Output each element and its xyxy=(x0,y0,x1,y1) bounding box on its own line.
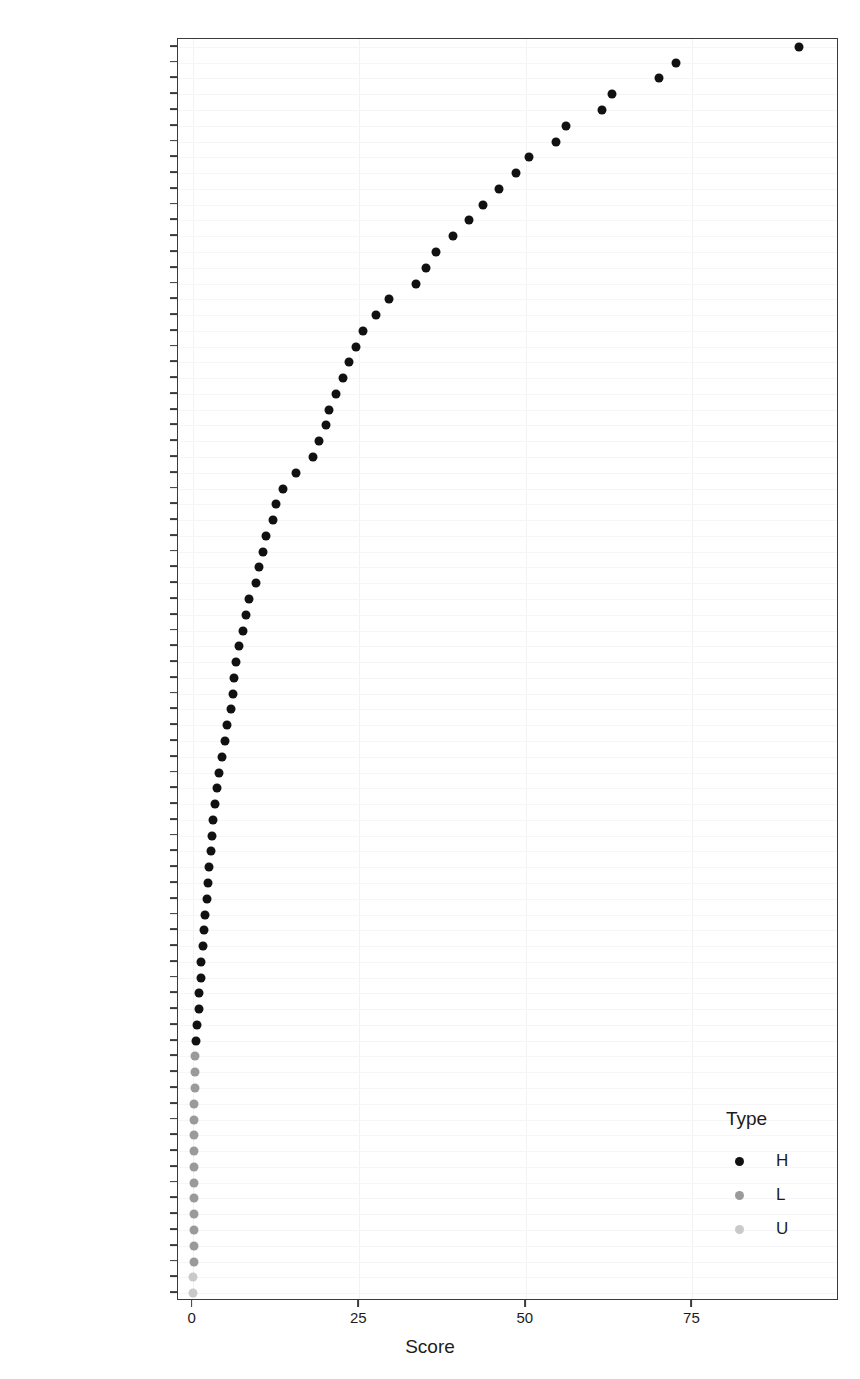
legend-dot-icon xyxy=(735,1191,744,1200)
data-point xyxy=(202,894,211,903)
data-point xyxy=(189,1178,198,1187)
y-tick-mark xyxy=(170,518,177,520)
gridline-horizontal xyxy=(178,757,837,758)
data-point xyxy=(271,500,280,509)
y-tick-mark xyxy=(170,708,177,710)
gridline-horizontal xyxy=(178,347,837,348)
data-point xyxy=(671,58,680,67)
y-tick-mark xyxy=(170,45,177,47)
data-point xyxy=(478,200,487,209)
legend-entries: HLU xyxy=(722,1144,842,1246)
data-point xyxy=(194,1005,203,1014)
data-point xyxy=(228,689,237,698)
gridline-horizontal xyxy=(178,1104,837,1105)
y-tick-mark xyxy=(170,692,177,694)
gridline-horizontal xyxy=(178,157,837,158)
data-point xyxy=(190,1052,199,1061)
y-tick-mark xyxy=(170,723,177,725)
data-point xyxy=(345,358,354,367)
y-tick-mark xyxy=(170,439,177,441)
gridline-horizontal xyxy=(178,489,837,490)
gridline-horizontal xyxy=(178,173,837,174)
gridline-horizontal xyxy=(178,315,837,316)
data-point xyxy=(525,153,534,162)
y-tick-mark xyxy=(170,1007,177,1009)
y-tick-mark xyxy=(170,1055,177,1057)
gridline-horizontal xyxy=(178,63,837,64)
gridline-horizontal xyxy=(178,47,837,48)
gridline-horizontal xyxy=(178,331,837,332)
scatter-plot-figure: Overall_QualNeighborhoodGr_Liv_AreaFull_… xyxy=(0,0,860,1379)
gridline-horizontal xyxy=(178,899,837,900)
gridline-horizontal xyxy=(178,394,837,395)
data-point xyxy=(495,184,504,193)
data-point xyxy=(217,752,226,761)
y-tick-mark xyxy=(170,1086,177,1088)
gridline-horizontal xyxy=(178,94,837,95)
gridline-horizontal xyxy=(178,804,837,805)
gridline-horizontal xyxy=(178,741,837,742)
y-tick-mark xyxy=(170,1291,177,1293)
data-point xyxy=(213,784,222,793)
gridline-horizontal xyxy=(178,851,837,852)
gridline-horizontal xyxy=(178,552,837,553)
y-tick-mark xyxy=(170,282,177,284)
gridline-horizontal xyxy=(178,378,837,379)
gridline-horizontal xyxy=(178,836,837,837)
gridline-horizontal xyxy=(178,978,837,979)
legend-entry[interactable]: U xyxy=(722,1212,842,1246)
gridline-horizontal xyxy=(178,694,837,695)
data-point xyxy=(251,579,260,588)
data-point xyxy=(411,279,420,288)
y-tick-mark xyxy=(170,1212,177,1214)
data-point xyxy=(308,453,317,462)
y-tick-mark xyxy=(170,297,177,299)
data-point xyxy=(189,1210,198,1219)
gridline-horizontal xyxy=(178,583,837,584)
data-point xyxy=(655,74,664,83)
gridline-horizontal xyxy=(178,1025,837,1026)
data-point xyxy=(189,1241,198,1250)
y-tick-mark xyxy=(170,1260,177,1262)
gridline-horizontal xyxy=(178,915,837,916)
data-point xyxy=(211,800,220,809)
y-tick-mark xyxy=(170,487,177,489)
y-tick-mark xyxy=(170,203,177,205)
data-point xyxy=(189,1147,198,1156)
x-axis-title: Score xyxy=(0,1336,860,1358)
legend-dot-icon xyxy=(735,1225,744,1234)
y-tick-mark xyxy=(170,471,177,473)
x-tick-mark xyxy=(524,1300,526,1307)
data-point xyxy=(189,1273,198,1282)
gridline-horizontal xyxy=(178,205,837,206)
y-tick-mark xyxy=(170,597,177,599)
data-point xyxy=(190,1131,199,1140)
data-point xyxy=(371,311,380,320)
y-tick-mark xyxy=(170,1149,177,1151)
legend-label: H xyxy=(776,1151,788,1171)
gridline-horizontal xyxy=(178,189,837,190)
y-tick-mark xyxy=(170,424,177,426)
y-tick-mark xyxy=(170,155,177,157)
gridline-horizontal xyxy=(178,1009,837,1010)
data-point xyxy=(193,1020,202,1029)
y-tick-mark xyxy=(170,376,177,378)
y-tick-mark xyxy=(170,250,177,252)
data-point xyxy=(195,989,204,998)
data-point xyxy=(189,1226,198,1235)
gridline-vertical xyxy=(526,39,527,1299)
y-tick-mark xyxy=(170,897,177,899)
legend-entry[interactable]: L xyxy=(722,1178,842,1212)
y-tick-mark xyxy=(170,660,177,662)
y-tick-mark xyxy=(170,171,177,173)
gridline-vertical xyxy=(193,39,194,1299)
data-point xyxy=(209,815,218,824)
legend-entry[interactable]: H xyxy=(722,1144,842,1178)
data-point xyxy=(199,926,208,935)
gridline-horizontal xyxy=(178,220,837,221)
gridline-vertical xyxy=(359,39,360,1299)
gridline-horizontal xyxy=(178,425,837,426)
data-point xyxy=(268,516,277,525)
x-tick-label: 25 xyxy=(350,1309,367,1326)
y-tick-mark xyxy=(170,850,177,852)
